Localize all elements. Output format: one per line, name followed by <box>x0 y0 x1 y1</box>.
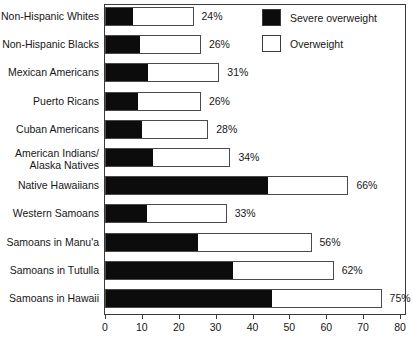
bar-value-label: 26% <box>209 35 230 54</box>
chart-legend: Severe overweight Overweight <box>262 8 392 60</box>
bar-segment-severe-overweight <box>106 290 272 307</box>
axis-tick-mark <box>216 314 217 319</box>
bar-row: Native Hawaiians66% <box>0 175 412 203</box>
category-label: Non-Hispanic Whites <box>0 10 99 22</box>
bar-segment-overweight <box>147 205 226 222</box>
stacked-bar <box>105 120 208 139</box>
bar-segment-severe-overweight <box>106 205 147 222</box>
bar-value-label: 31% <box>227 63 248 82</box>
legend-swatch-severe-overweight-icon <box>262 9 281 26</box>
bar-value-label: 34% <box>238 148 259 167</box>
bar-row: Cuban Americans28% <box>0 119 412 147</box>
stacked-bar <box>105 63 219 82</box>
axis-tick-mark <box>253 314 254 319</box>
stacked-bar-chart: Non-Hispanic Whites24%Non-Hispanic Black… <box>0 0 412 351</box>
axis-tick-label: 70 <box>348 321 378 333</box>
axis-tick-label: 50 <box>274 321 304 333</box>
axis-tick-mark <box>179 314 180 319</box>
bar-value-label: 75% <box>390 289 411 308</box>
stacked-bar <box>105 204 227 223</box>
stacked-bar <box>105 289 382 308</box>
bar-value-label: 28% <box>216 120 237 139</box>
legend-swatch-overweight-icon <box>262 35 281 52</box>
category-label: Mexican Americans <box>0 66 99 78</box>
axis-tick-label: 30 <box>201 321 231 333</box>
bar-value-label: 26% <box>209 92 230 111</box>
bar-row: American Indians/ Alaska Natives34% <box>0 147 412 175</box>
axis-tick-label: 0 <box>90 321 120 333</box>
category-label: Cuban Americans <box>0 123 99 135</box>
axis-tick-label: 20 <box>164 321 194 333</box>
bar-segment-overweight <box>153 149 230 166</box>
stacked-bar <box>105 92 201 111</box>
bar-segment-severe-overweight <box>106 121 142 138</box>
axis-tick-mark <box>289 314 290 319</box>
bar-row: Samoans in Hawaii75% <box>0 288 412 316</box>
stacked-bar <box>105 233 312 252</box>
bar-segment-severe-overweight <box>106 149 153 166</box>
category-label: Non-Hispanic Blacks <box>0 38 99 50</box>
stacked-bar <box>105 261 334 280</box>
stacked-bar <box>105 148 230 167</box>
category-label: American Indians/ Alaska Natives <box>0 147 99 171</box>
legend-item-severe-overweight: Severe overweight <box>262 8 392 27</box>
bar-segment-severe-overweight <box>106 234 198 251</box>
category-label: Samoans in Hawaii <box>0 292 99 304</box>
bar-segment-severe-overweight <box>106 177 268 194</box>
bar-segment-severe-overweight <box>106 93 138 110</box>
category-label: Samoans in Tutulla <box>0 264 99 276</box>
bar-segment-severe-overweight <box>106 262 233 279</box>
axis-tick-mark <box>105 314 106 319</box>
category-label: Western Samoans <box>0 207 99 219</box>
axis-tick-mark <box>142 314 143 319</box>
axis-tick-label: 80 <box>385 321 412 333</box>
axis-tick-label: 60 <box>311 321 341 333</box>
bar-segment-overweight <box>140 36 200 53</box>
bar-segment-overweight <box>272 290 381 307</box>
bar-segment-severe-overweight <box>106 36 140 53</box>
bar-row: Samoans in Tutulla62% <box>0 260 412 288</box>
bar-value-label: 62% <box>342 261 363 280</box>
category-label: Samoans in Manu'a <box>0 236 99 248</box>
bar-segment-severe-overweight <box>106 64 148 81</box>
category-label: Native Hawaiians <box>0 179 99 191</box>
bar-row: Western Samoans33% <box>0 203 412 231</box>
stacked-bar <box>105 7 194 26</box>
bar-segment-overweight <box>268 177 347 194</box>
x-axis: 01020304050607080 <box>104 314 406 346</box>
category-label: Puerto Ricans <box>0 95 99 107</box>
legend-label-severe-overweight: Severe overweight <box>290 12 377 24</box>
bar-segment-overweight <box>138 93 200 110</box>
stacked-bar <box>105 35 201 54</box>
bar-value-label: 24% <box>202 7 223 26</box>
axis-tick-mark <box>326 314 327 319</box>
bar-segment-overweight <box>198 234 310 251</box>
bar-value-label: 33% <box>235 204 256 223</box>
bar-segment-overweight <box>148 64 218 81</box>
stacked-bar <box>105 176 348 195</box>
axis-tick-label: 40 <box>238 321 268 333</box>
axis-tick-mark <box>363 314 364 319</box>
bar-segment-overweight <box>142 121 207 138</box>
bar-segment-overweight <box>233 262 332 279</box>
bar-segment-severe-overweight <box>106 8 133 25</box>
bar-value-label: 56% <box>320 233 341 252</box>
legend-label-overweight: Overweight <box>290 38 343 50</box>
bar-value-label: 66% <box>356 176 377 195</box>
bar-segment-overweight <box>133 8 193 25</box>
legend-item-overweight: Overweight <box>262 34 392 53</box>
bar-row: Mexican Americans31% <box>0 62 412 90</box>
axis-tick-mark <box>400 314 401 319</box>
bar-row: Puerto Ricans26% <box>0 91 412 119</box>
bar-row: Samoans in Manu'a56% <box>0 232 412 260</box>
axis-tick-label: 10 <box>127 321 157 333</box>
